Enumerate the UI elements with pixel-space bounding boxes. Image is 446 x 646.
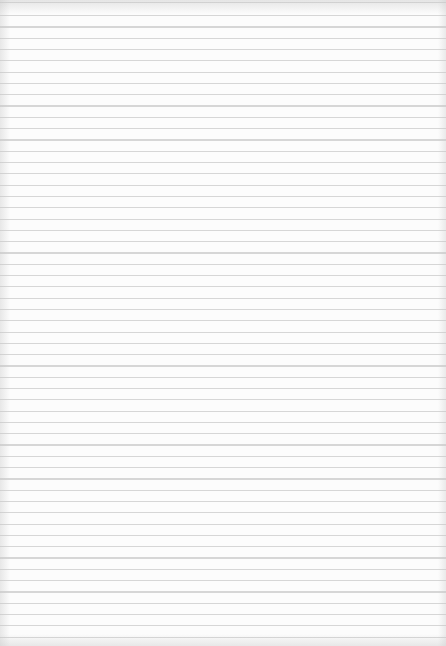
lined-paper-sheet bbox=[0, 0, 446, 646]
paper-edge-shadow bbox=[0, 0, 446, 646]
